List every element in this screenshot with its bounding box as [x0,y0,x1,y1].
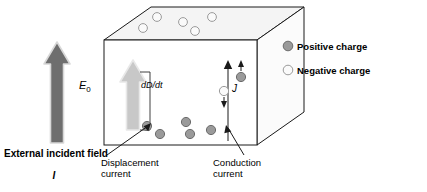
e0-arrow-shape [44,42,70,143]
legend-positive-marker [283,41,293,51]
positive-charge [181,117,190,126]
negative-charge [139,24,148,33]
displacement-current-caption-line1: Displacement [101,157,159,168]
e0-subscript: 0 [86,85,90,94]
legend-item-negative-label: Negative charge [297,65,370,76]
conduction-negative-charge [219,86,228,95]
e0-field-arrow [44,42,70,143]
positive-charge [206,125,215,134]
e0-field-label: E0 [79,79,91,94]
displacement-current-caption-line2: current [101,168,159,179]
negative-charge [179,18,188,27]
conduction-current-caption: Conduction current [213,157,261,179]
legend-negative-marker [283,65,293,75]
displacement-current-symbol-label: dD/dt [141,80,163,90]
legend-item-positive-label: Positive charge [297,41,367,52]
negative-charge [153,13,162,22]
physics-diagram: E0 dD/dt J External incident field I Dis… [0,0,427,192]
positive-charge [155,129,164,138]
negative-charge [208,13,217,22]
conduction-current-caption-line1: Conduction [213,157,261,168]
conduction-current-symbol-label: J [232,83,237,94]
displacement-current-caption: Displacement current [101,157,159,179]
external-incident-field-symbol: I [4,170,104,181]
external-incident-field-caption: External incident field [4,148,104,159]
negative-charge [191,27,200,36]
conduction-positive-charge [236,72,245,81]
conduction-current-caption-line2: current [213,168,261,179]
positive-charge [185,129,194,138]
